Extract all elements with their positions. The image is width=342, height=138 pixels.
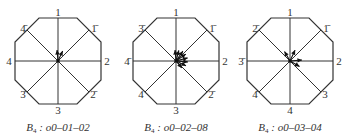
vector-arrows [173,50,188,68]
axis-label-ne: 1̄ [209,22,217,34]
axis-label-w: 4̄ [124,55,132,67]
axis-label-sw: 4 [138,88,144,100]
axis-label-sw: 4̄ [252,88,260,100]
axis-label-nw: 4̄ [20,22,28,34]
panel-caption: B4 : o0–01–02 [26,121,90,135]
axis-label-e: 2 [336,55,342,67]
axis-label-ne: 1̄ [91,22,99,34]
arrow-head-icon [183,59,188,63]
octagon-panel-2: 1324̄1̄3̄2̄4B4 : o0–02–08 [124,6,228,135]
axis-label-n: 1 [55,6,61,18]
axis-label-e: 2 [222,55,228,67]
axis-label-se: 3 [322,88,328,100]
axis-label-w: 3̄ [238,55,246,67]
octagon-panel-1: 13241̄4̄2̄3̄B4 : o0–01–02 [6,6,110,135]
octagon-panel-3: 1423̄1̄2̄34̄B4 : o0–03–04 [238,6,342,135]
axis-label-s: 3 [55,104,61,116]
axis-label-n: 1 [173,6,179,18]
panel-caption: B4 : o0–03–04 [258,121,322,135]
axis-label-n: 1 [287,6,293,18]
axis-label-nw: 3̄ [138,22,146,34]
axis-label-se: 2̄ [208,88,216,100]
axis-label-s: 3 [173,104,179,116]
axis-label-nw: 2̄ [252,22,260,34]
axis-label-sw: 3̄ [20,88,28,100]
panel-caption: B4 : o0–02–08 [144,121,208,135]
axis-label-s: 4 [287,104,293,116]
axis-label-ne: 1̄ [323,22,331,34]
octagon-diagram-figure: 13241̄4̄2̄3̄B4 : o0–01–02 1324̄1̄3̄2̄4B4… [0,0,342,138]
arrow-head-icon [297,58,302,62]
axis-label-e: 2 [104,55,110,67]
axis-label-w: 4 [6,55,12,67]
axis-label-se: 2̄ [90,88,98,100]
